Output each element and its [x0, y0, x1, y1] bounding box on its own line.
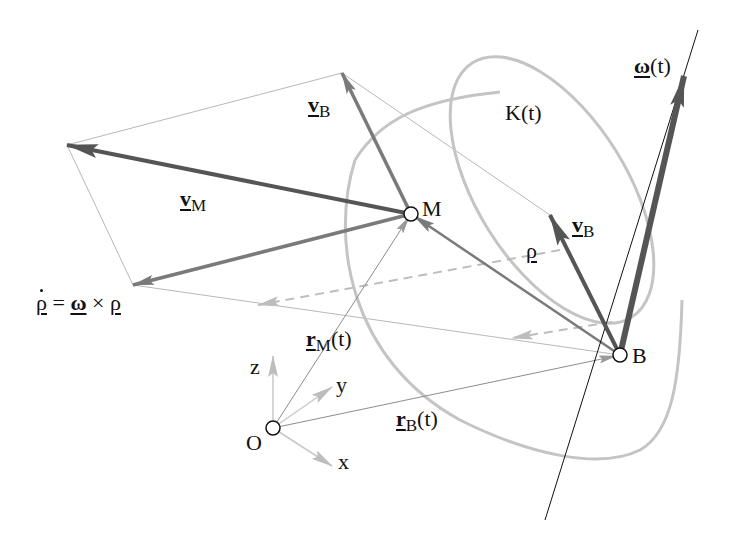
vb-at-m-vector: [342, 73, 411, 214]
coordinate-axes: [273, 356, 332, 466]
label-rm: rM(t): [306, 328, 352, 350]
label-rho: ρ: [526, 240, 537, 262]
label-o: O: [246, 432, 262, 454]
diagram-canvas: [0, 0, 734, 555]
kinematics-diagram: vB vM M ρ vB K(t) ω(t) ρ = ω × ρ rM(t) r…: [0, 0, 734, 555]
label-vb-right: vB: [572, 214, 594, 236]
cylinder-k: [345, 23, 695, 459]
label-vm: vM: [180, 188, 206, 210]
position-vectors: [273, 217, 616, 428]
omega-vector: [620, 76, 684, 355]
label-rb: rB(t): [396, 408, 438, 430]
label-b: B: [632, 345, 647, 367]
point-m: [404, 207, 418, 221]
rho-dot-vector: [133, 214, 411, 285]
point-o: [266, 421, 280, 435]
point-b: [613, 348, 627, 362]
label-axis-y: y: [336, 374, 347, 396]
label-axis-x: x: [338, 451, 349, 473]
label-omega: ω(t): [634, 55, 671, 77]
dashed-projections: [258, 250, 612, 338]
label-rho-dot-equation: ρ = ω × ρ: [36, 292, 121, 314]
label-k: K(t): [505, 102, 542, 124]
label-m: M: [422, 198, 442, 220]
label-axis-z: z: [250, 356, 260, 378]
label-vb-top: vB: [308, 94, 330, 116]
